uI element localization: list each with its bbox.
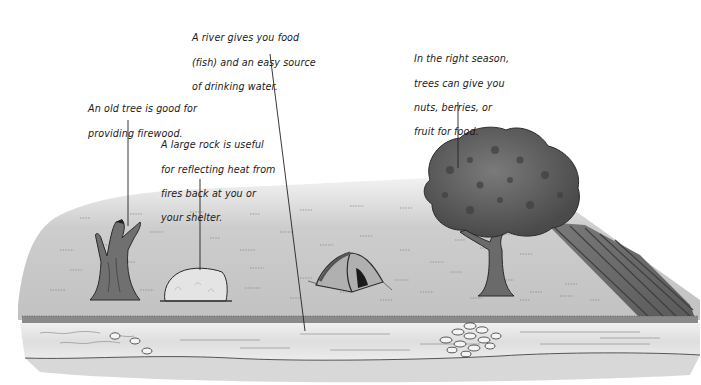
annotation-rock-line-2: for reflecting heat from — [161, 164, 276, 176]
annotation-old-tree-line-1: An old tree is good for — [88, 103, 197, 115]
annotation-river-line-1: A river gives you food — [192, 32, 316, 44]
river-bank — [22, 316, 698, 323]
annotation-rock-line-4: your shelter. — [161, 212, 276, 224]
river — [20, 323, 700, 382]
annotation-rock-line-3: fires back at you or — [161, 188, 276, 200]
annotation-fruit-tree-line-3: nuts, berries, or — [414, 102, 509, 114]
annotation-fruit-tree: In the right season, trees can give you … — [414, 41, 509, 151]
annotation-river: A river gives you food (fish) and an eas… — [192, 20, 316, 105]
annotation-river-line-3: of drinking water. — [192, 81, 316, 93]
annotation-fruit-tree-line-1: In the right season, — [414, 53, 509, 65]
annotation-river-line-2: (fish) and an easy source — [192, 57, 316, 69]
campsite-illustration — [0, 0, 701, 385]
annotation-fruit-tree-line-4: fruit for food. — [414, 126, 509, 138]
annotation-rock-line-1: A large rock is useful — [161, 139, 276, 151]
annotation-fruit-tree-line-2: trees can give you — [414, 78, 509, 90]
annotation-rock: A large rock is useful for reflecting he… — [161, 127, 276, 237]
